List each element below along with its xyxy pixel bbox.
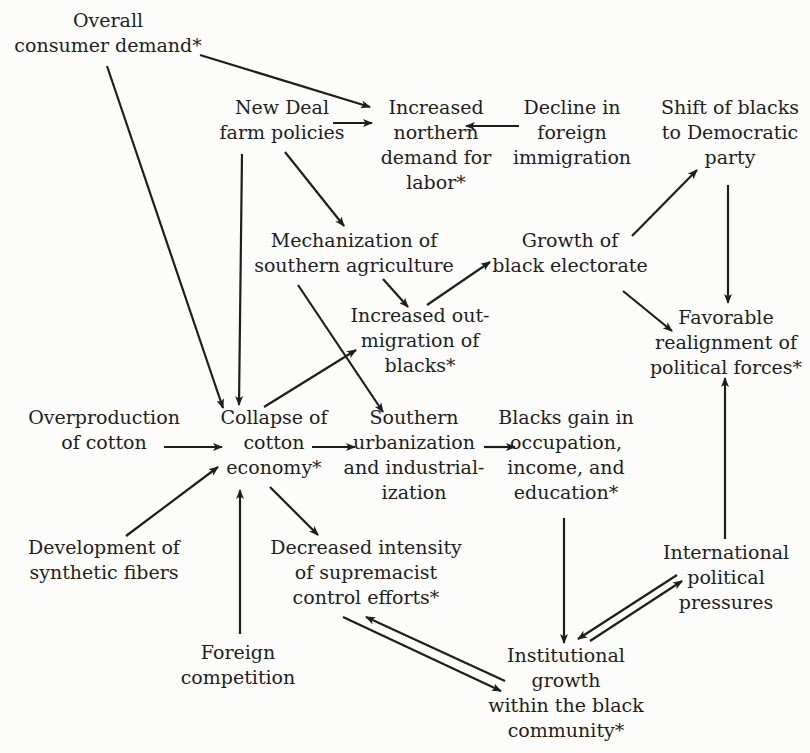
node-label-line: black electorate xyxy=(492,253,647,278)
node-label-line: growth xyxy=(488,668,643,693)
node-label-line: labor* xyxy=(381,170,492,195)
node-international-pressures: Internationalpoliticalpressures xyxy=(663,540,789,615)
node-label-line: foreign xyxy=(513,120,631,145)
node-label-line: immigration xyxy=(513,145,631,170)
node-label-line: Shift of blacks xyxy=(661,95,799,120)
node-foreign-competition: Foreigncompetition xyxy=(181,640,296,690)
node-label-line: community* xyxy=(488,718,643,743)
node-new-deal: New Dealfarm policies xyxy=(220,95,345,145)
node-label-line: farm policies xyxy=(220,120,345,145)
node-label-line: Favorable xyxy=(650,305,802,330)
node-out-migration: Increased out-migration ofblacks* xyxy=(351,303,490,378)
node-label-line: political xyxy=(663,565,789,590)
node-label-line: New Deal xyxy=(220,95,345,120)
node-northern-demand: Increasednortherndemand forlabor* xyxy=(381,95,492,195)
node-label-line: pressures xyxy=(663,590,789,615)
node-label-line: party xyxy=(661,145,799,170)
node-institutional-growth: Institutionalgrowthwithin the blackcommu… xyxy=(488,643,643,743)
node-label-line: occupation, xyxy=(498,430,633,455)
node-southern-urbanization: Southernurbanizationand industrial-izati… xyxy=(344,405,485,505)
node-shift-democratic: Shift of blacksto Democraticparty xyxy=(661,95,799,170)
node-label-line: migration of xyxy=(351,328,490,353)
node-label-line: Decreased intensity xyxy=(270,535,462,560)
node-label-line: Decline in xyxy=(513,95,631,120)
node-label-line: Blacks gain in xyxy=(498,405,633,430)
node-label-line: consumer demand* xyxy=(14,33,201,58)
node-label-line: of supremacist xyxy=(270,560,462,585)
node-label-line: Development of xyxy=(28,535,180,560)
node-label-line: control efforts* xyxy=(270,585,462,610)
arrow-institutional-growth-to-decreased-intensity xyxy=(366,617,505,681)
node-label-line: urbanization xyxy=(344,430,485,455)
node-label-line: northern xyxy=(381,120,492,145)
node-label-line: blacks* xyxy=(351,353,490,378)
node-label-line: competition xyxy=(181,665,296,690)
node-label-line: Increased out- xyxy=(351,303,490,328)
node-label-line: and industrial- xyxy=(344,455,485,480)
node-label-line: economy* xyxy=(220,455,327,480)
node-label-line: political forces* xyxy=(650,355,802,380)
arrow-synthetic-fibers-to-collapse-cotton xyxy=(126,467,218,536)
node-label-line: of cotton xyxy=(28,430,180,455)
node-label-line: International xyxy=(663,540,789,565)
node-label-line: Growth of xyxy=(492,228,647,253)
node-consumer-demand: Overallconsumer demand* xyxy=(14,8,201,58)
node-label-line: within the black xyxy=(488,693,643,718)
node-label-line: to Democratic xyxy=(661,120,799,145)
node-label-line: Increased xyxy=(381,95,492,120)
node-label-line: Overproduction xyxy=(28,405,180,430)
node-synthetic-fibers: Development ofsynthetic fibers xyxy=(28,535,180,585)
arrow-black-electorate-to-shift-democratic xyxy=(632,170,697,236)
arrow-decreased-intensity-to-institutional-growth xyxy=(343,617,501,691)
node-label-line: Collapse of xyxy=(220,405,327,430)
arrow-collapse-cotton-to-decreased-intensity xyxy=(270,487,318,535)
node-label-line: demand for xyxy=(381,145,492,170)
node-label-line: income, and xyxy=(498,455,633,480)
node-label-line: Overall xyxy=(14,8,201,33)
arrow-consumer-demand-to-collapse-cotton xyxy=(107,66,223,408)
arrow-new-deal-to-mechanization xyxy=(285,152,344,226)
node-blacks-gain: Blacks gain inoccupation,income, andeduc… xyxy=(498,405,633,505)
arrow-collapse-cotton-to-out-migration xyxy=(264,350,356,407)
node-label-line: Institutional xyxy=(488,643,643,668)
node-label-line: Foreign xyxy=(181,640,296,665)
node-black-electorate: Growth ofblack electorate xyxy=(492,228,647,278)
node-label-line: ization xyxy=(344,480,485,505)
node-mechanization: Mechanization ofsouthern agriculture xyxy=(254,228,454,278)
node-label-line: education* xyxy=(498,480,633,505)
node-decline-immigration: Decline inforeignimmigration xyxy=(513,95,631,170)
node-label-line: Southern xyxy=(344,405,485,430)
node-label-line: synthetic fibers xyxy=(28,560,180,585)
node-label-line: Mechanization of xyxy=(254,228,454,253)
node-label-line: cotton xyxy=(220,430,327,455)
node-decreased-intensity: Decreased intensityof supremacistcontrol… xyxy=(270,535,462,610)
causal-diagram: Overallconsumer demand*New Dealfarm poli… xyxy=(0,0,810,753)
node-favorable-realignment: Favorablerealignment ofpolitical forces* xyxy=(650,305,802,380)
node-label-line: southern agriculture xyxy=(254,253,454,278)
node-overproduction: Overproductionof cotton xyxy=(28,405,180,455)
node-collapse-cotton: Collapse ofcottoneconomy* xyxy=(220,405,327,480)
arrow-new-deal-to-collapse-cotton xyxy=(239,154,242,405)
node-label-line: realignment of xyxy=(650,330,802,355)
